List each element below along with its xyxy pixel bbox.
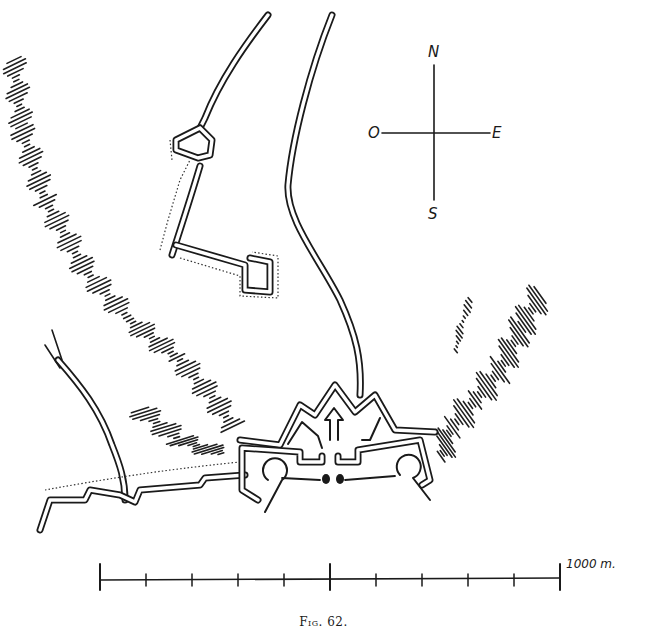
outwork-line xyxy=(160,15,278,298)
east-ridge-hachures xyxy=(436,285,548,462)
south-west-wall xyxy=(40,462,245,530)
north-road xyxy=(288,15,360,395)
fortress xyxy=(240,385,435,512)
compass-south-label: S xyxy=(428,205,438,223)
fortification-plan-map xyxy=(0,0,647,639)
compass-west-label: O xyxy=(368,124,380,142)
west-road xyxy=(45,330,125,500)
scale-bar-label: 1000 m. xyxy=(566,557,616,571)
compass-rose xyxy=(382,65,490,200)
scale-bar xyxy=(100,564,560,590)
figure-caption: Fig. 62. xyxy=(0,615,647,629)
compass-east-label: E xyxy=(492,124,501,142)
compass-north-label: N xyxy=(428,43,439,61)
